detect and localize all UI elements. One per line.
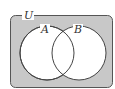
venn-diagram: U A B xyxy=(0,0,115,89)
universe-label: U xyxy=(24,9,34,22)
set-a-label: A xyxy=(40,23,49,36)
set-b-label: B xyxy=(73,23,82,36)
